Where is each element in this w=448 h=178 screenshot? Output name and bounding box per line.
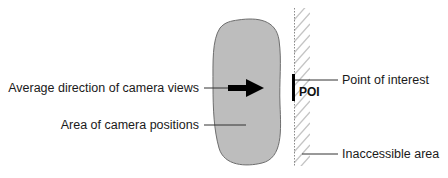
poi-marker xyxy=(292,74,295,101)
label-point-of-interest: Point of interest xyxy=(342,73,429,87)
label-average-direction: Average direction of camera views xyxy=(8,81,199,95)
label-inaccessible: Inaccessible area xyxy=(342,147,439,161)
poi-tag: POI xyxy=(299,85,320,99)
diagram-canvas: POI Average direction of camera views Ar… xyxy=(0,0,448,178)
label-area-positions: Area of camera positions xyxy=(61,118,199,132)
